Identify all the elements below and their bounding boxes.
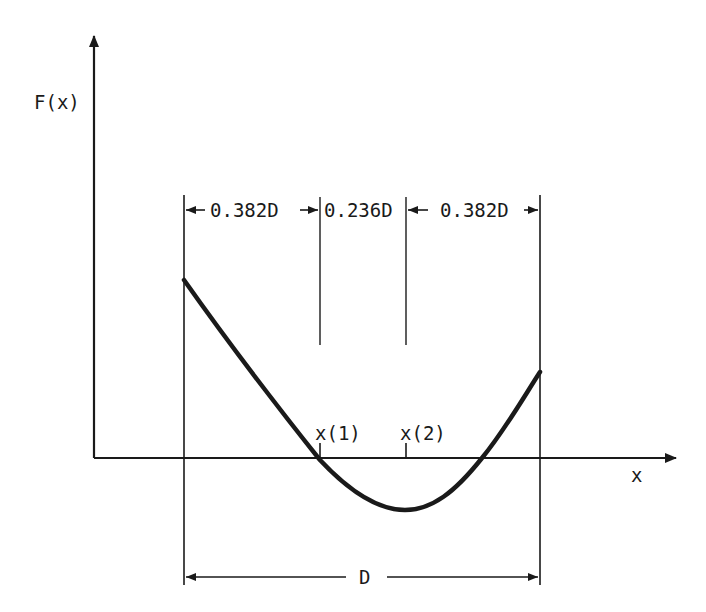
function-curve [184,280,540,510]
segment-label-2: 0.236D [324,199,393,221]
x2-label: x(2) [400,422,446,444]
segment-label-1: 0.382D [210,199,279,221]
interval-d-label: D [359,566,370,588]
golden-section-diagram: F(x) x 0.382D 0.236D 0.382D x(1) x(2) D [0,0,706,612]
x1-label: x(1) [315,422,361,444]
y-axis-label: F(x) [34,91,80,113]
segment-label-3: 0.382D [440,199,509,221]
x-axis-label: x [631,464,642,486]
